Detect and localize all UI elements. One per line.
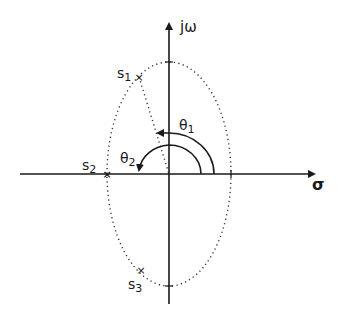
sigma-label: σ — [312, 175, 324, 194]
s3-label: s3 — [128, 276, 142, 295]
theta1-label: θ1 — [179, 117, 195, 136]
s2-label: s2 — [82, 157, 96, 176]
s1-marker: × — [134, 71, 143, 84]
s2-marker: × — [102, 168, 111, 181]
s3-marker: × — [136, 264, 145, 277]
theta2-arc — [139, 145, 201, 174]
theta2-label: θ2 — [120, 150, 136, 169]
s-plane-diagram: × × × jω σ s1 s2 s3 θ1 θ2 — [0, 0, 338, 326]
s1-label: s1 — [117, 65, 131, 84]
jw-label: jω — [179, 18, 197, 36]
